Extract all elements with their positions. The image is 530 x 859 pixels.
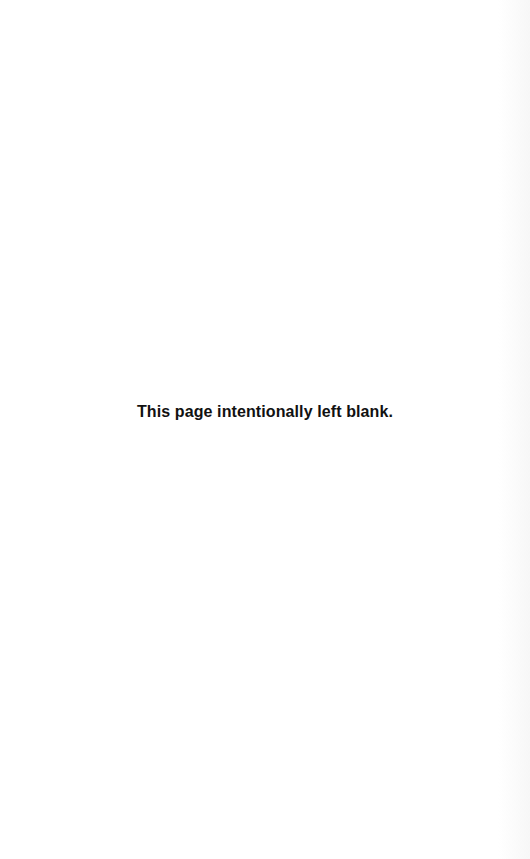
- document-page: This page intentionally left blank.: [0, 0, 530, 859]
- blank-page-notice: This page intentionally left blank.: [0, 403, 530, 421]
